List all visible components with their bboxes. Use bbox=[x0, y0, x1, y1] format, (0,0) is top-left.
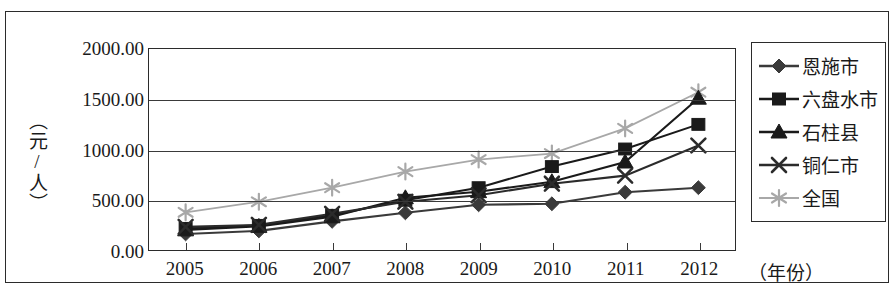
x-tick-label: 2007 bbox=[313, 258, 351, 280]
data-point-asterisk bbox=[325, 180, 339, 196]
legend-label: 全国 bbox=[802, 184, 840, 211]
x-tick-mark bbox=[627, 243, 628, 250]
y-tick-label: 0.00 bbox=[60, 242, 144, 261]
y-axis-title: （元/人） bbox=[20, 102, 54, 222]
gridline bbox=[149, 151, 735, 152]
legend-label: 六盘水市 bbox=[802, 85, 878, 112]
x-tick-mark bbox=[480, 243, 481, 250]
chart-svg bbox=[149, 49, 735, 250]
legend-item-2[interactable]: 六盘水市 bbox=[758, 82, 881, 115]
y-tick-label: 2000.00 bbox=[60, 39, 144, 58]
y-tick-label: 500.00 bbox=[60, 191, 144, 210]
legend-marker-x-icon bbox=[758, 153, 800, 177]
x-tick-mark bbox=[553, 243, 554, 250]
x-tick-mark bbox=[406, 243, 407, 250]
x-tick-mark bbox=[259, 243, 260, 250]
x-tick-label: 2008 bbox=[386, 258, 424, 280]
x-tick-mark bbox=[333, 243, 334, 250]
data-point-triangle bbox=[690, 90, 706, 104]
legend-item-3[interactable]: 石柱县 bbox=[758, 115, 881, 148]
legend-item-4[interactable]: 铜仁市 bbox=[758, 148, 881, 181]
x-axis-tick-labels: 20052006200720082009201020112012 bbox=[148, 258, 736, 287]
x-tick-mark bbox=[700, 243, 701, 250]
chart-figure: （元/人） 0.00500.001000.001500.002000.00 20… bbox=[5, 11, 889, 283]
legend-item-5[interactable]: 全国 bbox=[758, 181, 881, 214]
y-axis-tick-labels: 0.00500.001000.001500.002000.00 bbox=[58, 12, 144, 287]
chart-legend: 恩施市六盘水市石柱县铜仁市全国 bbox=[751, 42, 886, 222]
data-point-square bbox=[545, 161, 558, 173]
data-point-diamond bbox=[691, 181, 705, 195]
legend-label: 恩施市 bbox=[802, 52, 859, 79]
legend-marker-diamond-icon bbox=[758, 54, 800, 78]
legend-item-1[interactable]: 恩施市 bbox=[758, 49, 881, 82]
data-point-square bbox=[692, 118, 705, 130]
gridline bbox=[149, 201, 735, 202]
y-tick-label: 1000.00 bbox=[60, 140, 144, 159]
x-tick-mark bbox=[186, 243, 187, 250]
x-tick-label: 2005 bbox=[166, 258, 204, 280]
series-line bbox=[186, 145, 699, 226]
legend-marker-asterisk-icon bbox=[758, 186, 800, 210]
data-point-diamond bbox=[772, 59, 786, 73]
legend-marker-triangle-icon bbox=[758, 120, 800, 144]
x-tick-label: 2012 bbox=[680, 258, 718, 280]
legend-label: 铜仁市 bbox=[802, 151, 859, 178]
data-point-asterisk bbox=[618, 120, 632, 136]
data-point-square bbox=[773, 93, 786, 105]
x-tick-label: 2006 bbox=[239, 258, 277, 280]
legend-marker-square-icon bbox=[758, 87, 800, 111]
data-point-diamond bbox=[618, 185, 632, 199]
data-point-diamond bbox=[545, 197, 559, 211]
x-tick-label: 2009 bbox=[460, 258, 498, 280]
legend-label: 石柱县 bbox=[802, 118, 859, 145]
y-tick-label: 1500.00 bbox=[60, 89, 144, 108]
gridline bbox=[149, 100, 735, 101]
plot-area bbox=[148, 48, 736, 251]
x-axis-title: （年份） bbox=[748, 258, 824, 285]
x-tick-label: 2011 bbox=[607, 258, 644, 280]
x-tick-label: 2010 bbox=[533, 258, 571, 280]
